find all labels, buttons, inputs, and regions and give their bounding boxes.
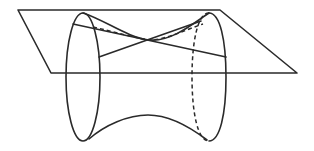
hyperboloid-plane-figure <box>0 0 314 151</box>
diagram-canvas <box>0 0 314 151</box>
right-end-ellipse-back-hidden <box>192 13 209 141</box>
right-end-ellipse-front <box>209 13 226 141</box>
upper-profile-curve <box>83 13 209 40</box>
generator-line-1 <box>73 24 226 57</box>
lower-profile-curve <box>89 115 207 140</box>
left-end-ellipse <box>66 13 100 141</box>
